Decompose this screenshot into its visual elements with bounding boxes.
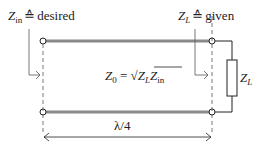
zin-label: Zin≙desired — [8, 8, 75, 25]
load-resistor — [227, 60, 237, 96]
load-label: ZL — [240, 70, 252, 87]
z0-formula-label: Z0 = √ZLZin — [105, 68, 165, 85]
load-wire-top — [212, 41, 232, 60]
leader-arrow-right — [195, 29, 208, 75]
length-label: λ/4 — [114, 118, 131, 133]
leader-arrow-left — [29, 29, 40, 75]
zl-given-label: ZL≙given — [178, 8, 235, 25]
load-wire-bottom — [212, 96, 232, 112]
terminal-left-top — [40, 38, 46, 44]
quarter-wave-transformer-diagram: Zin≙desired ZL≙given Z0 = √ZLZin ZL λ/4 — [0, 0, 264, 147]
